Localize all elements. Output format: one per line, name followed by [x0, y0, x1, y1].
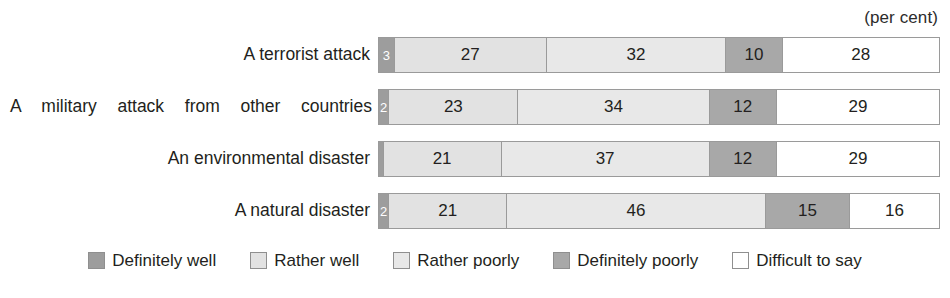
- bar-segment-rather-well: 21: [389, 193, 507, 229]
- bar-segment-rather-well: 27: [395, 37, 547, 73]
- segment-value: 16: [885, 201, 904, 221]
- segment-value: 29: [849, 149, 868, 169]
- segment-value: 2: [380, 100, 387, 115]
- segment-value: 27: [461, 45, 480, 65]
- bar-segment-definitely-poorly: 10: [726, 37, 782, 73]
- stacked-bar: 221461516: [378, 193, 940, 229]
- bar-segment-rather-poorly: 32: [547, 37, 727, 73]
- legend-label: Definitely well: [112, 252, 216, 269]
- bar-segment-definitely-poorly: 15: [766, 193, 850, 229]
- segment-value: 28: [851, 45, 870, 65]
- row-label-an-environmental-disaster: An environmental disaster: [0, 150, 378, 168]
- bar-segment-definitely-poorly: 12: [710, 141, 777, 177]
- chart-row: An environmental disaster21371229: [0, 140, 950, 178]
- row-label-a-military-attack-from-other-countries: A military attack from other countries: [0, 98, 378, 116]
- legend-item-definitely-well[interactable]: Definitely well: [88, 252, 216, 269]
- stacked-bar: 223341229: [378, 89, 940, 125]
- legend-item-rather-poorly[interactable]: Rather poorly: [393, 252, 519, 269]
- bar-segment-rather-poorly: 37: [502, 141, 710, 177]
- bar-segment-difficult-to-say: 29: [777, 141, 940, 177]
- legend-item-definitely-poorly[interactable]: Definitely poorly: [553, 252, 698, 269]
- legend-swatch-icon: [250, 252, 267, 269]
- segment-value: 21: [438, 201, 457, 221]
- stacked-bar: 21371229: [378, 141, 940, 177]
- legend-label: Definitely poorly: [577, 252, 698, 269]
- segment-value: 3: [383, 48, 390, 63]
- legend-swatch-icon: [393, 252, 410, 269]
- bar-segment-definitely-well: 2: [378, 89, 389, 125]
- legend-swatch-icon: [88, 252, 105, 269]
- unit-caption: (per cent): [864, 8, 938, 28]
- segment-value: 12: [733, 149, 752, 169]
- bar-segment-difficult-to-say: 29: [777, 89, 940, 125]
- chart-row: A terrorist attack327321028: [0, 36, 950, 74]
- bar-segment-definitely-well: 3: [378, 37, 395, 73]
- chart-plot-area: A terrorist attack327321028A military at…: [0, 36, 950, 244]
- row-label-a-natural-disaster: A natural disaster: [0, 202, 378, 220]
- bar-segment-rather-well: 21: [384, 141, 502, 177]
- segment-value: 10: [745, 45, 764, 65]
- chart-row: A natural disaster221461516: [0, 192, 950, 230]
- legend-swatch-icon: [553, 252, 570, 269]
- stacked-bar-chart: (per cent) A terrorist attack327321028A …: [0, 0, 950, 298]
- bar-segment-rather-well: 23: [389, 89, 518, 125]
- row-label-a-terrorist-attack: A terrorist attack: [0, 46, 378, 64]
- segment-value: 2: [380, 204, 387, 219]
- stacked-bar: 327321028: [378, 37, 940, 73]
- legend-label: Rather well: [274, 252, 359, 269]
- segment-value: 32: [627, 45, 646, 65]
- segment-value: 46: [627, 201, 646, 221]
- bar-segment-definitely-poorly: 12: [710, 89, 777, 125]
- segment-value: 34: [604, 97, 623, 117]
- segment-value: 12: [733, 97, 752, 117]
- bar-segment-difficult-to-say: 16: [850, 193, 940, 229]
- legend-label: Rather poorly: [417, 252, 519, 269]
- bar-segment-rather-poorly: 34: [518, 89, 709, 125]
- segment-value: 23: [444, 97, 463, 117]
- chart-legend: Definitely wellRather wellRather poorlyD…: [0, 252, 950, 269]
- segment-value: 15: [798, 201, 817, 221]
- bar-segment-difficult-to-say: 28: [783, 37, 940, 73]
- segment-value: 37: [596, 149, 615, 169]
- segment-value: 29: [849, 97, 868, 117]
- bar-segment-definitely-well: 2: [378, 193, 389, 229]
- chart-row: A military attack from other countries22…: [0, 88, 950, 126]
- legend-item-rather-well[interactable]: Rather well: [250, 252, 359, 269]
- bar-segment-rather-poorly: 46: [507, 193, 766, 229]
- legend-label: Difficult to say: [756, 252, 862, 269]
- segment-value: 21: [433, 149, 452, 169]
- legend-swatch-icon: [732, 252, 749, 269]
- legend-item-difficult-to-say[interactable]: Difficult to say: [732, 252, 862, 269]
